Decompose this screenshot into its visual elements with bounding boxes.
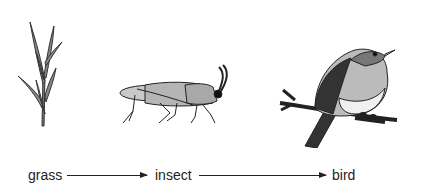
grasshopper-icon bbox=[115, 63, 235, 128]
insect-label: insect bbox=[155, 167, 192, 183]
arrow-insect-to-bird bbox=[199, 175, 326, 176]
arrow-grass-to-insect bbox=[67, 175, 147, 176]
grass-icon bbox=[14, 14, 64, 129]
bird-icon bbox=[275, 38, 425, 148]
bird-label: bird bbox=[332, 167, 355, 183]
food-chain-diagram: grass insect bird bbox=[0, 0, 425, 196]
grass-label: grass bbox=[28, 167, 62, 183]
